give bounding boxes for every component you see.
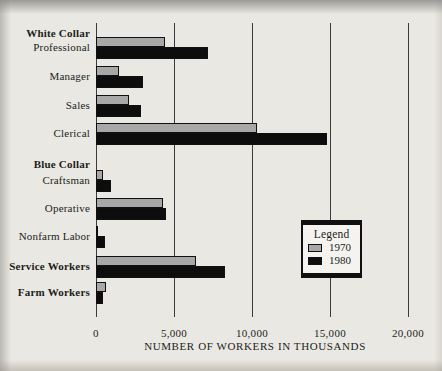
row-label-farm-workers: Farm Workers <box>0 287 90 298</box>
bar-professional-1970 <box>96 37 165 47</box>
row-label-operative: Operative <box>0 203 90 214</box>
legend-swatch-1970 <box>308 244 322 252</box>
bar-craftsman-1980 <box>96 180 111 192</box>
bar-professional-1980 <box>96 47 208 59</box>
row-label-craftsman: Craftsman <box>0 175 90 186</box>
x-tick-10-000: 10,000 <box>236 328 268 339</box>
bar-service-workers-1970 <box>96 256 196 266</box>
legend-spacer <box>303 266 360 273</box>
row-label-clerical: Clerical <box>0 128 90 139</box>
gridline-10-000 <box>252 23 253 317</box>
bar-operative-1970 <box>96 198 163 208</box>
x-tick-20-000: 20,000 <box>392 328 424 339</box>
bar-sales-1980 <box>96 105 141 117</box>
x-tick-5-000: 5,000 <box>161 328 187 339</box>
bar-clerical-1980 <box>96 133 327 145</box>
row-label-blue-collar: Blue Collar <box>0 159 90 170</box>
bar-craftsman-1970 <box>96 170 103 180</box>
x-axis-title: NUMBER OF WORKERS IN THOUSANDS <box>144 341 366 352</box>
legend-title: Legend <box>303 228 360 240</box>
row-label-white-collar: White Collar <box>0 28 90 39</box>
bar-operative-1980 <box>96 208 166 220</box>
legend-entry-1980: 1980 <box>303 255 360 266</box>
bar-manager-1980 <box>96 76 143 88</box>
row-label-nonfarm-labor: Nonfarm Labor <box>0 231 90 242</box>
row-label-professional: Professional <box>0 42 90 53</box>
legend-entry-1970: 1970 <box>303 242 360 253</box>
legend-swatch-1980 <box>308 257 322 265</box>
x-tick-0: 0 <box>93 328 99 339</box>
gridline-20-000 <box>408 23 409 317</box>
bar-farm-workers-1980 <box>96 292 103 304</box>
x-tick-15-000: 15,000 <box>314 328 346 339</box>
scanned-grouped-bar-chart: White CollarProfessionalManagerSalesCler… <box>0 0 442 371</box>
bar-sales-1970 <box>96 95 129 105</box>
legend: Legend 1970 1980 <box>301 220 362 278</box>
bar-manager-1970 <box>96 66 119 76</box>
legend-frame-bottom <box>303 273 360 278</box>
row-label-manager: Manager <box>0 71 90 82</box>
bar-nonfarm-labor-1970 <box>96 226 98 236</box>
bar-service-workers-1980 <box>96 266 225 278</box>
bar-farm-workers-1970 <box>96 282 106 292</box>
bar-clerical-1970 <box>96 123 257 133</box>
row-label-service-workers: Service Workers <box>0 261 90 272</box>
legend-label-1970: 1970 <box>329 242 351 253</box>
row-label-sales: Sales <box>0 100 90 111</box>
legend-label-1980: 1980 <box>329 255 351 266</box>
legend-frame-top <box>303 220 360 225</box>
bar-nonfarm-labor-1980 <box>96 236 105 248</box>
